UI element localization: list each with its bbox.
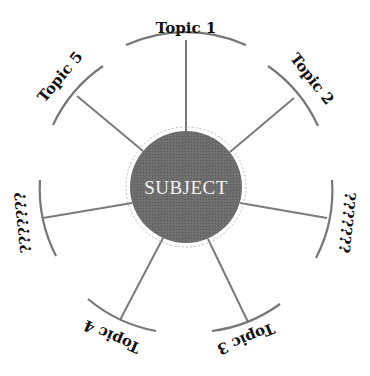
spoke-topic-2 [230,98,294,152]
spoke-topic-4 [120,238,163,320]
label-topic-4: Topic 4 [81,316,144,357]
spider-diagram: Topic 1 Topic 2 ??????? Topic 3 Topic 4 … [0,0,370,376]
subject-node: SUBJECT [126,127,246,247]
arc-unknown-right [316,180,332,258]
spoke-unknown-left [43,203,132,218]
label-unknown-left: ??????? [11,191,35,254]
spoke-topic-5 [77,96,143,151]
subject-label: SUBJECT [144,177,228,198]
spoke-unknown-right [240,203,327,218]
label-topic-1: Topic 1 [156,19,216,37]
spoke-topic-3 [208,239,248,322]
label-topic-2: Topic 2 [286,50,337,109]
label-unknown-right: ??????? [335,191,359,254]
label-topic-3: Topic 3 [214,319,277,358]
